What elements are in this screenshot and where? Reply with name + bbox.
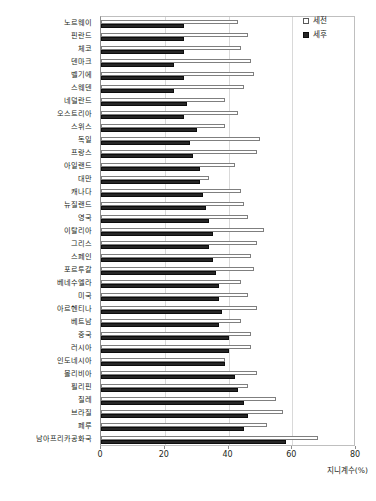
- y-axis-label: 오스트리아: [57, 110, 92, 118]
- bar-row: [101, 332, 354, 340]
- y-axis-label: 볼리비아: [64, 370, 92, 378]
- y-axis-label: 베트남: [71, 318, 92, 326]
- x-tick-mark: [100, 446, 101, 449]
- x-tick-mark: [355, 446, 356, 449]
- y-axis-label: 핀란드: [71, 32, 92, 40]
- bar-row: [101, 358, 354, 366]
- bar-post-tax: [101, 50, 184, 54]
- y-axis-label: 체코: [78, 45, 92, 53]
- bar-post-tax: [101, 37, 184, 41]
- bar-post-tax: [101, 362, 225, 366]
- bar-post-tax: [101, 401, 244, 405]
- y-axis-label: 아일랜드: [64, 162, 92, 170]
- bar-row: [101, 228, 354, 236]
- gini-coefficient-bar-chart: 노르웨이핀란드체코덴마크벨기에스웨덴네덜란드오스트리아스위스독일프랑스아일랜드대…: [0, 0, 376, 501]
- bar-post-tax: [101, 232, 213, 236]
- bar-row: [101, 85, 354, 93]
- bar-row: [101, 241, 354, 249]
- x-tick-label: 40: [222, 450, 232, 460]
- y-axis-label: 노르웨이: [64, 19, 92, 27]
- y-axis-label: 독일: [78, 136, 92, 144]
- y-axis-category-labels: 노르웨이핀란드체코덴마크벨기에스웨덴네덜란드오스트리아스위스독일프랑스아일랜드대…: [0, 16, 96, 446]
- bar-post-tax: [101, 76, 184, 80]
- x-axis-ticks: 020406080: [100, 446, 355, 462]
- bar-post-tax: [101, 115, 184, 119]
- bar-post-tax: [101, 63, 174, 67]
- bar-row: [101, 163, 354, 171]
- y-axis-label: 덴마크: [71, 58, 92, 66]
- bar-post-tax: [101, 141, 190, 145]
- legend-swatch-pre-tax-icon: [303, 18, 309, 24]
- x-tick-label: 20: [159, 450, 169, 460]
- x-tick-mark: [291, 446, 292, 449]
- y-axis-label: 프랑스: [71, 149, 92, 157]
- bar-post-tax: [101, 89, 174, 93]
- bar-post-tax: [101, 440, 286, 444]
- bar-post-tax: [101, 388, 238, 392]
- y-axis-label: 페루: [78, 422, 92, 430]
- x-tick-label: 60: [286, 450, 296, 460]
- y-axis-label: 아르헨티나: [57, 305, 92, 313]
- legend-item-post-tax: 세후: [303, 30, 327, 39]
- bar-post-tax: [101, 128, 197, 132]
- bar-row: [101, 150, 354, 158]
- bar-row: [101, 202, 354, 210]
- y-axis-label: 브라질: [71, 409, 92, 417]
- y-axis-label: 포르투갈: [64, 266, 92, 274]
- bar-row: [101, 72, 354, 80]
- bar-post-tax: [101, 206, 206, 210]
- y-axis-label: 러시아: [71, 344, 92, 352]
- y-axis-label: 이탈리아: [64, 227, 92, 235]
- legend-item-pre-tax: 세전: [303, 16, 327, 25]
- bar-row: [101, 397, 354, 405]
- bar-post-tax: [101, 167, 200, 171]
- x-tick-label: 80: [350, 450, 360, 460]
- x-axis-title: 지니계수(%): [0, 466, 368, 476]
- bar-post-tax: [101, 349, 229, 353]
- bar-row: [101, 137, 354, 145]
- y-axis-label: 베네수엘라: [57, 279, 92, 287]
- bar-post-tax: [101, 271, 216, 275]
- legend: 세전 세후: [210, 14, 360, 50]
- bar-row: [101, 111, 354, 119]
- y-axis-label: 네덜란드: [64, 97, 92, 105]
- bar-post-tax: [101, 154, 193, 158]
- y-axis-label: 칠레: [78, 396, 92, 404]
- bar-row: [101, 280, 354, 288]
- y-axis-label: 대만: [78, 175, 92, 183]
- y-axis-label: 캐나다: [71, 188, 92, 196]
- x-tick-mark: [228, 446, 229, 449]
- bar-row: [101, 124, 354, 132]
- bar-row: [101, 176, 354, 184]
- bar-post-tax: [101, 323, 219, 327]
- legend-label-post-tax: 세후: [313, 30, 327, 39]
- plot-area: [100, 16, 355, 446]
- legend-swatch-post-tax-icon: [303, 32, 309, 38]
- bar-post-tax: [101, 258, 213, 262]
- y-axis-label: 남아프리카공화국: [36, 435, 92, 443]
- y-axis-label: 스웨덴: [71, 84, 92, 92]
- bar-row: [101, 293, 354, 301]
- bar-post-tax: [101, 375, 235, 379]
- legend-label-pre-tax: 세전: [313, 16, 327, 25]
- bar-row: [101, 254, 354, 262]
- y-axis-label: 영국: [78, 214, 92, 222]
- y-axis-label: 미국: [78, 292, 92, 300]
- y-axis-label: 인도네시아: [57, 357, 92, 365]
- bar-row: [101, 306, 354, 314]
- bar-post-tax: [101, 245, 209, 249]
- bar-post-tax: [101, 427, 244, 431]
- bar-post-tax: [101, 310, 222, 314]
- bar-post-tax: [101, 336, 229, 340]
- y-axis-label: 벨기에: [71, 71, 92, 79]
- bar-post-tax: [101, 284, 219, 288]
- bar-row: [101, 384, 354, 392]
- bar-row: [101, 59, 354, 67]
- bar-row: [101, 423, 354, 431]
- y-axis-label: 그리스: [71, 240, 92, 248]
- bar-post-tax: [101, 297, 219, 301]
- x-tick-mark: [164, 446, 165, 449]
- bar-row: [101, 267, 354, 275]
- y-axis-label: 필리핀: [71, 383, 92, 391]
- y-axis-label: 뉴질랜드: [64, 201, 92, 209]
